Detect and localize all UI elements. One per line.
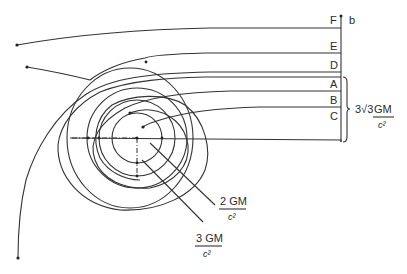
photon-sphere-pointer <box>142 160 203 222</box>
critical-numerator: GM <box>374 103 392 115</box>
critical-impact-brace <box>343 77 350 142</box>
critical-coefficient: 3√3 <box>355 103 373 115</box>
photon-sphere-denominator: c² <box>203 249 212 259</box>
label-B: B <box>330 94 337 106</box>
photon-sphere-numerator: 3 GM <box>196 232 223 244</box>
trajectory-E <box>27 53 341 80</box>
label-C: C <box>330 110 338 122</box>
horizon-numerator: 2 GM <box>220 195 247 207</box>
horizon-denominator: c² <box>228 212 237 222</box>
trajectory-F <box>17 28 341 45</box>
photon-orbits-diagram: F E D A B C b 3√3 GM c² 2 GM c² 3 GM c² <box>0 0 407 274</box>
label-E: E <box>330 40 337 52</box>
critical-denominator: c² <box>378 120 387 130</box>
label-A: A <box>330 78 338 90</box>
label-D: D <box>330 59 338 71</box>
label-b: b <box>349 14 355 26</box>
label-F: F <box>330 14 337 26</box>
axis-base-line <box>70 138 341 142</box>
